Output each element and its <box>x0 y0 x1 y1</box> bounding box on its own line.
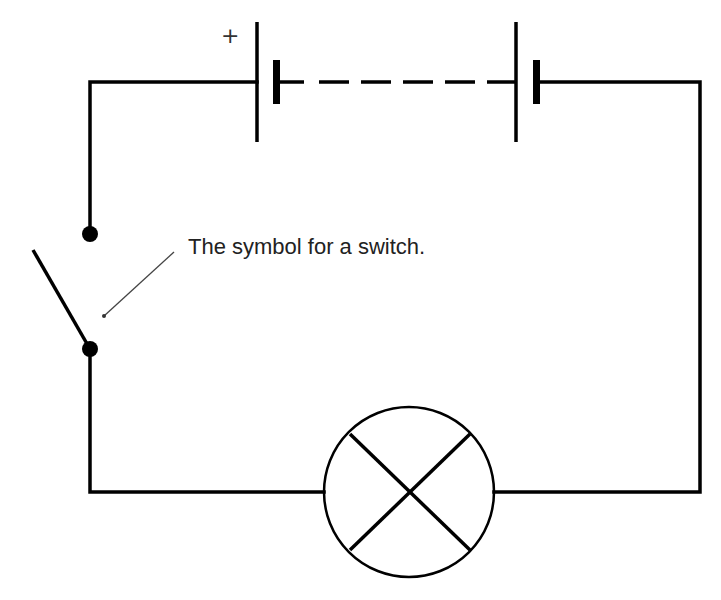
switch-top-contact <box>82 226 98 242</box>
circuit-diagram: + The symbol for a switch. <box>0 0 721 600</box>
cell-2 <box>516 22 540 142</box>
wire-top-right <box>494 82 700 492</box>
cell-1-negative-plate <box>273 60 280 104</box>
switch-annotation: The symbol for a switch. <box>102 234 425 318</box>
switch-lever <box>33 250 90 349</box>
annotation-text: The symbol for a switch. <box>188 234 425 259</box>
annotation-leader-dot <box>102 314 106 318</box>
cell-2-negative-plate <box>533 60 540 104</box>
wires <box>90 82 700 492</box>
lamp <box>324 407 494 577</box>
wire-top-left <box>90 82 257 234</box>
annotation-leader-line <box>104 252 174 316</box>
switch <box>33 226 98 357</box>
positive-terminal-label: + <box>221 23 239 48</box>
wire-bottom-left <box>90 349 324 492</box>
